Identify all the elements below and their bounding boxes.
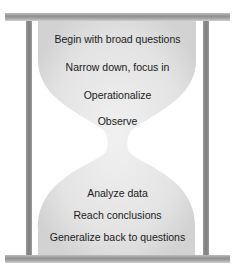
step-analyze-data: Analyze data <box>0 187 235 199</box>
step-begin-broad: Begin with broad questions <box>0 33 235 45</box>
hourglass-bottom-bar <box>5 255 230 263</box>
step-narrow-down: Narrow down, focus in <box>0 61 235 73</box>
step-operationalize: Operationalize <box>0 89 235 101</box>
step-reach-conclusions: Reach conclusions <box>0 209 235 221</box>
step-observe: Observe <box>0 115 235 127</box>
hourglass-top-bar <box>5 13 230 21</box>
step-generalize-back: Generalize back to questions <box>0 231 235 243</box>
